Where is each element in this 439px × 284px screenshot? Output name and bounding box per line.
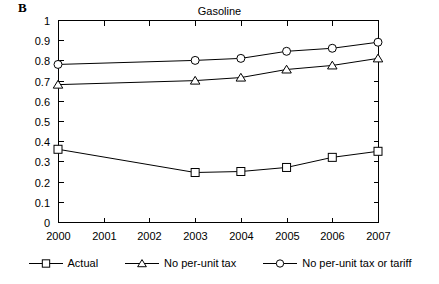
data-marker-square [237,168,245,176]
series-1 [54,145,382,176]
figure-panel-b: B Gasoline 00.10.20.30.40.50.60.70.80.91… [0,0,439,284]
data-marker-square [283,163,291,171]
data-marker-circle [283,47,291,55]
y-tick-label: 0.2 [35,177,50,189]
x-tick-label: 2000 [46,230,70,242]
data-marker-square [42,260,49,267]
x-tick-label: 2005 [275,230,299,242]
legend-label: No per-unit tax or tariff [302,257,411,269]
y-tick-label: 0.8 [35,55,50,67]
x-tick-label: 2002 [137,230,161,242]
x-tick-label: 2003 [183,230,207,242]
data-marker-circle [374,38,382,46]
legend-key-square-icon [28,256,64,270]
x-tick-label: 2006 [320,230,344,242]
legend-item-square[interactable]: Actual [28,256,99,270]
y-tick-label: 0 [44,217,50,229]
y-tick-label: 0.3 [35,156,50,168]
data-marker-circle [237,54,245,62]
legend-key-circle-icon [262,256,298,270]
data-marker-circle [328,44,336,52]
y-tick-label: 0.9 [35,35,50,47]
data-marker-square [54,145,62,153]
y-tick-label: 0.1 [35,197,50,209]
legend-label: No per-unit tax [164,257,236,269]
y-tick-label: 0.5 [35,116,50,128]
x-tick-label: 2007 [366,230,390,242]
legend-label: Actual [68,257,99,269]
data-marker-square [191,169,199,177]
y-tick-label: 0.7 [35,76,50,88]
legend-key-triangle-icon [124,256,160,270]
y-tick-label: 1 [44,15,50,27]
series-line [58,58,378,84]
y-tick-label: 0.4 [35,136,50,148]
x-tick-label: 2004 [229,230,253,242]
line-chart-plot-area: 00.10.20.30.40.50.60.70.80.9120002001200… [0,0,439,284]
legend-item-triangle[interactable]: No per-unit tax [124,256,236,270]
data-marker-circle [277,260,284,267]
y-tick-label: 0.6 [35,96,50,108]
data-marker-triangle [373,54,383,62]
chart-legend: ActualNo per-unit taxNo per-unit tax or … [0,256,439,270]
data-marker-circle [191,56,199,64]
data-marker-square [328,153,336,161]
x-tick-label: 2001 [92,230,116,242]
data-marker-square [374,147,382,155]
data-marker-circle [54,60,62,68]
legend-item-circle[interactable]: No per-unit tax or tariff [262,256,411,270]
